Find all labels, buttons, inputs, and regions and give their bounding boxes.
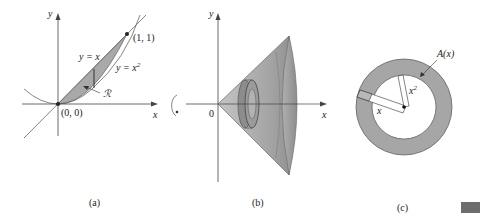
caption-b: (b) xyxy=(252,197,264,209)
label-region: ℛ xyxy=(103,88,112,99)
origin-label-b: 0 xyxy=(209,108,214,119)
center-dot xyxy=(402,105,406,109)
label-outer-radius: x xyxy=(376,105,382,116)
y-axis-label-b: y xyxy=(208,8,214,19)
label-area: A(x) xyxy=(436,48,455,60)
figure-canvas: y x (1, 1) (0, 0) y = x y = x2 ℛ (a) xyxy=(0,0,480,223)
caption-c: (c) xyxy=(397,202,408,214)
panel-b: y x 0 (b) xyxy=(172,8,327,209)
y-axis-arrow-icon xyxy=(216,13,221,20)
label-y-equals-x: y = x xyxy=(78,51,100,62)
x-axis-label-b: x xyxy=(321,109,327,120)
y-axis-arrow-icon xyxy=(56,13,61,20)
rotation-dot xyxy=(176,111,179,114)
x-axis-label-a: x xyxy=(152,109,158,120)
panel-c: A(x) x x2 (c) xyxy=(356,48,455,214)
label-origin: (0, 0) xyxy=(61,107,83,119)
point-one-one xyxy=(125,32,129,36)
y-axis-label-a: y xyxy=(47,8,53,19)
corner-block xyxy=(461,202,480,213)
label-y-equals-x-squared: y = x2 xyxy=(115,61,141,73)
panel-a: y x (1, 1) (0, 0) y = x y = x2 ℛ (a) xyxy=(22,8,158,209)
x-axis-arrow-icon xyxy=(151,102,158,107)
caption-a: (a) xyxy=(89,197,100,209)
point-origin xyxy=(56,102,60,106)
label-point-one-one: (1, 1) xyxy=(133,32,155,44)
x-axis-arrow-icon xyxy=(320,102,327,107)
